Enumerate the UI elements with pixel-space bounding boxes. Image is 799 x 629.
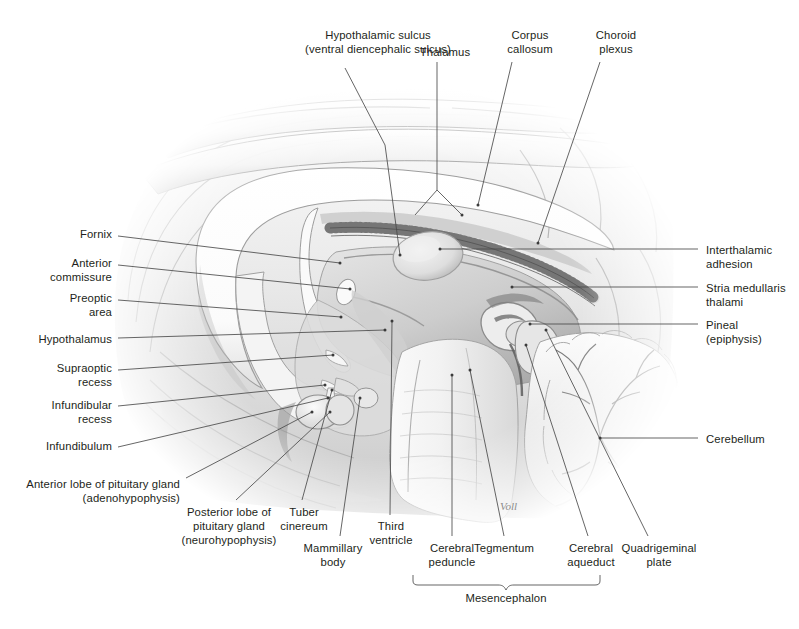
leader-infundibulum-endpoint: [327, 397, 330, 400]
label-anterior-commissure: Anterior commissure: [12, 256, 112, 284]
leader-supraoptic-recess-endpoint: [332, 354, 335, 357]
leader-anterior-lobe-endpoint: [311, 411, 314, 414]
leader-tegmentum-endpoint: [469, 369, 472, 372]
leader-anterior-commissure: [118, 265, 350, 289]
leader-infundibular-recess: [118, 385, 325, 406]
leader-thalamus-endpoint: [461, 214, 464, 217]
label-quadrigeminal-plate: Quadrigeminal plate: [608, 541, 710, 569]
label-hypothalamus: Hypothalamus: [6, 332, 112, 346]
leader-supraoptic-recess: [118, 355, 333, 370]
leader-cerebellum-endpoint: [599, 437, 602, 440]
leader-hypothalamic-sulcus-endpoint: [399, 254, 402, 257]
label-infundibular-recess: Infundibular recess: [12, 398, 112, 426]
label-choroid-plexus: Choroid plexus: [578, 28, 654, 56]
leader-anterior-commissure-endpoint: [349, 288, 352, 291]
leader-corpus-callosum-endpoint: [477, 204, 480, 207]
leader-third-ventricle: [390, 321, 392, 515]
leader-posterior-lobe: [236, 412, 330, 500]
leader-choroid-plexus: [538, 62, 600, 243]
leader-hypothalamus: [118, 330, 385, 338]
anatomical-figure: Hypothalamic sulcus (ventral diencephali…: [0, 0, 799, 629]
label-stria-medullaris-thalami: Stria medullaris thalami: [706, 281, 799, 309]
leader-hypothalamus-endpoint: [384, 329, 387, 332]
label-interthalamic-adhesion: Interthalamic adhesion: [706, 243, 799, 271]
label-fornix: Fornix: [16, 227, 112, 241]
artist-signature: Voll: [500, 500, 517, 512]
leader-interthalamic-adhesion-endpoint: [439, 248, 442, 251]
leader-quadrigeminal-plate: [546, 330, 648, 536]
leader-infundibular-recess-endpoint: [324, 384, 327, 387]
leader-infundibulum: [118, 398, 328, 447]
leader-hypothalamic-sulcus: [345, 68, 400, 255]
leader-posterior-lobe-endpoint: [329, 411, 332, 414]
mesencephalon-bracket: [413, 575, 600, 590]
leader-fornix: [118, 236, 340, 263]
leader-choroid-plexus-endpoint: [537, 242, 540, 245]
label-cerebellum: Cerebellum: [706, 432, 799, 446]
label-preoptic-area: Preoptic area: [12, 291, 112, 319]
label-pineal-epiphysis: Pineal (epiphysis): [706, 318, 799, 346]
leader-mammillary-body: [340, 398, 360, 536]
label-supraoptic-recess: Supraoptic recess: [12, 361, 112, 389]
leader-tuber-cinereum: [302, 390, 332, 500]
label-thalamus: Thalamus: [400, 45, 490, 59]
leader-cerebral-peduncle-endpoint: [451, 374, 454, 377]
leader-cerebral-aqueduct-endpoint: [525, 344, 528, 347]
label-anterior-lobe-pituitary: Anterior lobe of pituitary gland (adenoh…: [24, 477, 180, 505]
leader-stria-medullaris-endpoint: [511, 286, 514, 289]
mesencephalon-bracket-label: Mesencephalon: [456, 591, 556, 605]
leader-preoptic-area-endpoint: [340, 316, 343, 319]
leader-cerebral-aqueduct: [526, 345, 588, 536]
label-corpus-callosum: Corpus callosum: [490, 28, 570, 56]
leader-thalamus: [415, 62, 462, 215]
leader-tuber-cinereum-endpoint: [331, 389, 334, 392]
label-tuber-cinereum: Tuber cinereum: [268, 505, 340, 533]
leader-tegmentum: [470, 370, 504, 536]
leader-quadrigeminal-plate-endpoint: [545, 329, 548, 332]
leader-third-ventricle-endpoint: [391, 320, 394, 323]
label-infundibulum: Infundibulum: [6, 439, 112, 453]
leader-pineal-endpoint: [529, 323, 532, 326]
leader-mammillary-body-endpoint: [359, 397, 362, 400]
leader-anterior-lobe: [186, 412, 312, 478]
leader-corpus-callosum: [478, 62, 512, 205]
leader-fornix-endpoint: [339, 262, 342, 265]
leader-preoptic-area: [118, 300, 341, 317]
label-tegmentum: Tegmentum: [462, 541, 546, 555]
